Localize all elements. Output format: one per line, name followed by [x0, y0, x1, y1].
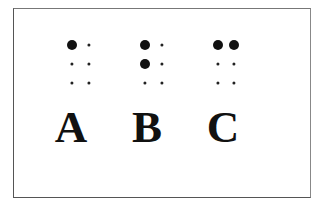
- raised-dot-1-icon: [213, 40, 223, 50]
- letter-label-b: B: [122, 104, 172, 150]
- raised-dot-2-icon: [140, 59, 150, 69]
- letter-label-c: C: [198, 104, 248, 150]
- raised-dot-1-icon: [140, 40, 150, 50]
- raised-dot-1-icon: [67, 40, 77, 50]
- letter-label-a: A: [46, 104, 96, 150]
- raised-dot-4-icon: [229, 40, 239, 50]
